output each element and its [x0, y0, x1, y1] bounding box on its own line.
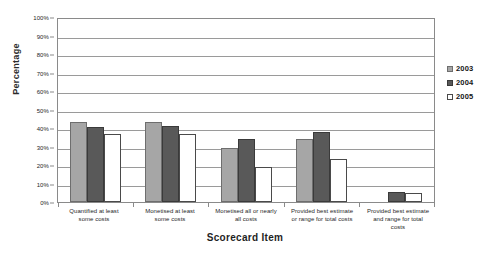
legend-item-2003[interactable]: 2003 — [447, 64, 474, 73]
y-axis-tick-mark — [50, 110, 54, 111]
x-axis-label-line: some costs — [57, 215, 131, 223]
x-axis-label-line: costs — [361, 223, 435, 231]
bar-2004 — [87, 127, 104, 202]
y-axis-tick-label: 80% — [37, 52, 49, 58]
bar-2005 — [405, 193, 422, 202]
legend-swatch-icon — [447, 80, 453, 86]
x-axis-category-label: Quantified at leastsome costs — [56, 207, 132, 231]
x-axis-label-line: Provided best estimate — [361, 207, 435, 215]
bar-group — [58, 18, 133, 202]
x-axis-label-line: some costs — [133, 215, 207, 223]
x-axis-title: Scorecard Item — [0, 232, 490, 243]
x-axis-label-line: Monetised at least — [133, 207, 207, 215]
bar-2005 — [104, 134, 121, 202]
y-axis-tick-mark — [50, 55, 54, 56]
bar-chart: Percentage 100%90%80%70%60%50%40%30%20%1… — [0, 0, 490, 255]
x-axis-label-line: all costs — [209, 215, 283, 223]
x-axis-category-label: Monetised at leastsome costs — [132, 207, 208, 231]
bar-groups — [58, 18, 434, 202]
x-axis-label-line: Monetised all or nearly — [209, 207, 283, 215]
bar-2003 — [145, 122, 162, 202]
bar-group — [359, 18, 434, 202]
bar-2004 — [238, 139, 255, 202]
y-axis-tick-mark — [50, 184, 54, 185]
legend-swatch-icon — [447, 66, 453, 72]
x-axis-category-label: Monetised all or nearlyall costs — [208, 207, 284, 231]
x-axis-label-line: and range for total — [361, 215, 435, 223]
y-axis-tick-mark — [50, 129, 54, 130]
y-axis-tick-label: 40% — [37, 126, 49, 132]
y-axis-tick-labels: 100%90%80%70%60%50%40%30%20%10%0% — [0, 18, 54, 203]
bar-2005 — [179, 134, 196, 202]
y-axis-tick-mark — [50, 73, 54, 74]
x-axis-category-labels: Quantified at leastsome costsMonetised a… — [56, 207, 436, 231]
y-axis-tick-label: 100% — [33, 15, 49, 21]
y-axis-tick-label: 0% — [40, 200, 49, 206]
bar-2003 — [70, 122, 87, 202]
y-axis-tick-mark — [50, 203, 54, 204]
y-axis-tick-label: 20% — [37, 163, 49, 169]
legend-label: 2005 — [456, 92, 474, 101]
x-axis-category-label: Provided best estimateand range for tota… — [360, 207, 436, 231]
y-axis-tick-mark — [50, 92, 54, 93]
bar-group — [208, 18, 283, 202]
legend-item-2005[interactable]: 2005 — [447, 92, 474, 101]
bar-2003 — [221, 148, 238, 202]
y-axis-tick-label: 70% — [37, 71, 49, 77]
y-axis-tick-label: 60% — [37, 89, 49, 95]
y-axis-tick-mark — [50, 147, 54, 148]
x-axis-label-line: or range for total costs — [285, 215, 359, 223]
y-axis-tick-label: 10% — [37, 182, 49, 188]
y-axis-tick-mark — [50, 166, 54, 167]
bar-2004 — [388, 192, 405, 202]
legend-label: 2004 — [456, 78, 474, 87]
y-axis-tick-label: 50% — [37, 108, 49, 114]
bar-group — [284, 18, 359, 202]
bar-2004 — [162, 126, 179, 202]
bar-group — [133, 18, 208, 202]
y-axis-tick-label: 90% — [37, 34, 49, 40]
legend-item-2004[interactable]: 2004 — [447, 78, 474, 87]
legend-swatch-icon — [447, 94, 453, 100]
x-axis-label-line: Quantified at least — [57, 207, 131, 215]
bar-2003 — [296, 139, 313, 202]
x-axis-category-label: Provided best estimateor range for total… — [284, 207, 360, 231]
x-axis-label-line: Provided best estimate — [285, 207, 359, 215]
bar-2004 — [313, 132, 330, 202]
y-axis-tick-mark — [50, 18, 54, 19]
bar-2005 — [330, 159, 347, 202]
legend-label: 2003 — [456, 64, 474, 73]
legend: 200320042005 — [447, 64, 474, 101]
y-axis-tick-mark — [50, 36, 54, 37]
bar-2005 — [255, 167, 272, 202]
y-axis-tick-label: 30% — [37, 145, 49, 151]
